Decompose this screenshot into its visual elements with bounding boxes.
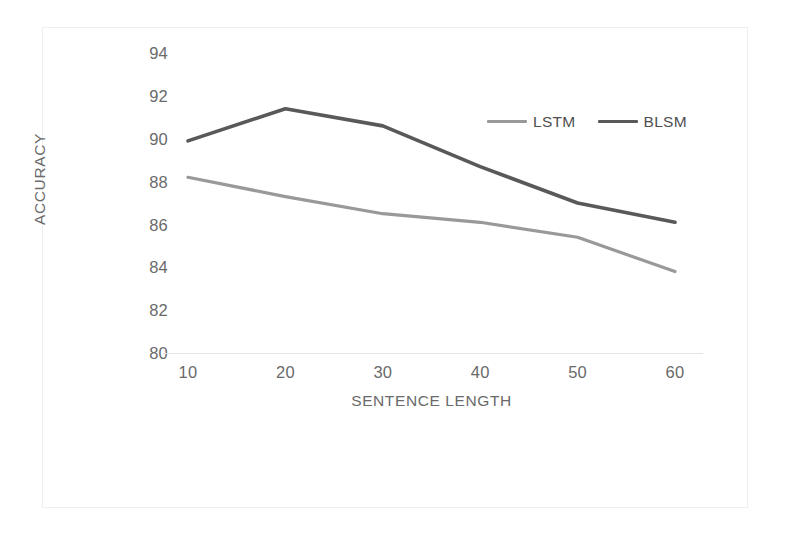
legend-entry-lstm: LSTM: [487, 114, 576, 130]
plot-series-svg: [188, 53, 675, 353]
x-axis-tick-label: 20: [255, 364, 315, 381]
y-axis-tick-label: 90: [122, 131, 168, 148]
y-axis-tick-label: 92: [122, 88, 168, 105]
line-chart-figure: 94 92 90 88 86 84 82 80 ACCURACY LSTM BL…: [0, 0, 789, 533]
y-axis-tick-label: 82: [122, 302, 168, 319]
legend-entry-blsm: BLSM: [598, 114, 687, 130]
y-axis-tick-label: 94: [122, 45, 168, 62]
x-axis-tick-label: 40: [450, 364, 510, 381]
x-axis-tick-label: 50: [548, 364, 608, 381]
legend-label-blsm: BLSM: [644, 114, 687, 130]
y-axis-tick-label: 80: [122, 345, 168, 362]
y-axis-tick-label: 86: [122, 217, 168, 234]
y-axis-tick-label: 84: [122, 259, 168, 276]
legend-swatch-blsm-icon: [598, 120, 638, 123]
y-axis-title: ACCURACY: [31, 109, 49, 249]
y-axis-tick-label: 88: [122, 174, 168, 191]
plot-area: [188, 53, 675, 353]
x-axis-line: [163, 353, 703, 354]
x-axis-tick-label: 30: [353, 364, 413, 381]
x-axis-tick-labels: 10 20 30 40 50 60: [188, 364, 675, 390]
x-axis-tick-label: 60: [645, 364, 705, 381]
x-axis-title: SENTENCE LENGTH: [188, 392, 675, 410]
y-axis-tick-labels: 94 92 90 88 86 84 82 80: [88, 0, 168, 533]
legend-label-lstm: LSTM: [533, 114, 576, 130]
chart-legend: LSTM BLSM: [487, 114, 687, 130]
legend-swatch-lstm-icon: [487, 120, 527, 123]
series-line-lstm: [188, 177, 675, 271]
x-axis-tick-label: 10: [158, 364, 218, 381]
